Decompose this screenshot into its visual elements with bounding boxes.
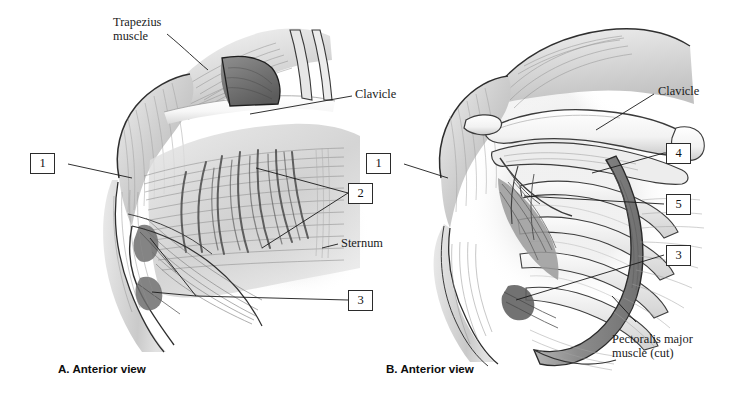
callout-1-panel-b-number: 1 (375, 157, 381, 170)
panel-a-caption: A. Anterior view (58, 362, 146, 375)
acromion-fragment (464, 115, 501, 135)
leader-trapezius (167, 34, 208, 70)
sternum-label: Sternum (341, 237, 383, 251)
callout-1-panel-a-number: 1 (39, 157, 45, 170)
callout-5-panel-b-number: 5 (675, 198, 681, 211)
pectoralis-major-cut-label-text: Pectoralis major muscle (cut) (612, 332, 693, 360)
clavicle-label-a: Clavicle (355, 88, 396, 102)
clavicle-label-b: Clavicle (658, 85, 699, 99)
callout-3-panel-b-number: 3 (675, 249, 681, 262)
callout-1-panel-a[interactable]: 1 (30, 153, 55, 174)
panel-b-caption: B. Anterior view (386, 362, 474, 375)
trapezius-muscle-label: Trapezius muscle (113, 16, 161, 43)
clavicle-label-a-text: Clavicle (355, 87, 396, 101)
panel-b-illustration (404, 29, 704, 370)
callout-3-panel-a[interactable]: 3 (348, 290, 373, 311)
pectoralis-major-cut-label: Pectoralis major muscle (cut) (612, 333, 693, 360)
clavicle-label-b-text: Clavicle (658, 84, 699, 98)
callout-3-panel-a-number: 3 (357, 294, 363, 307)
callout-2-panel-a-number: 2 (357, 187, 363, 200)
callout-4-panel-b[interactable]: 4 (666, 143, 691, 164)
panel-a-illustration (68, 29, 370, 352)
callout-5-panel-b[interactable]: 5 (666, 194, 691, 215)
callout-4-panel-b-number: 4 (675, 147, 681, 160)
anatomy-figure: Trapezius muscle Clavicle Sternum 1 2 3 … (0, 0, 738, 398)
callout-2-panel-a[interactable]: 2 (348, 183, 373, 204)
callout-3-panel-b[interactable]: 3 (666, 245, 691, 266)
trapezius-muscle-label-text: Trapezius muscle (113, 15, 161, 43)
sternum-label-text: Sternum (341, 236, 383, 250)
callout-1-panel-b[interactable]: 1 (366, 153, 391, 174)
